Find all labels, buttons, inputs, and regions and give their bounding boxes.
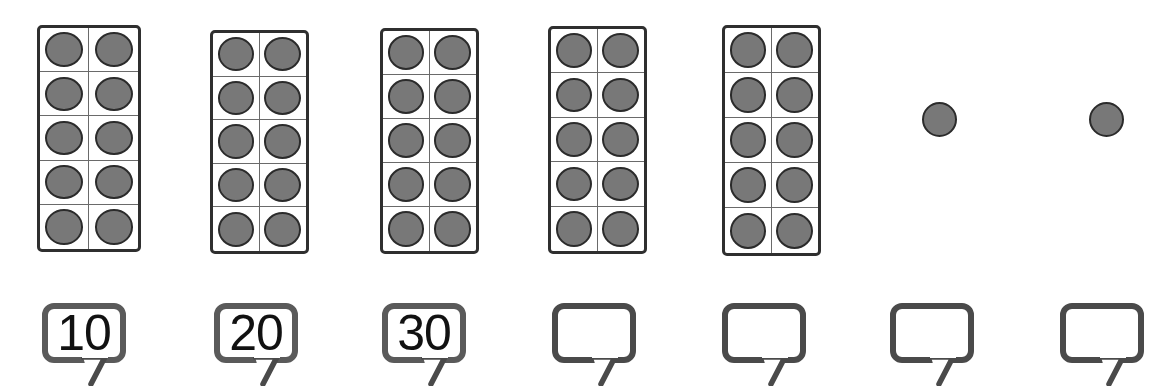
ten-frame-2[interactable] (210, 30, 309, 254)
ten-frame-cell[interactable] (260, 207, 307, 251)
ten-frame-cell[interactable] (260, 33, 307, 77)
counter-dot-icon (602, 211, 639, 247)
ten-frame-cell[interactable] (598, 162, 645, 206)
ten-frame-cell[interactable] (598, 118, 645, 162)
ten-frame-cell[interactable] (598, 73, 645, 117)
ten-frame-cell[interactable] (40, 116, 89, 160)
ten-frame-cell[interactable] (725, 73, 772, 118)
counting-worksheet-canvas: 102030 (0, 0, 1176, 386)
counter-dot-icon (556, 211, 592, 247)
counter-dot-icon (264, 37, 301, 71)
answer-bubble-blank[interactable] (1060, 303, 1144, 363)
ten-frame-cell[interactable] (260, 120, 307, 164)
ten-frame-cell[interactable] (213, 77, 260, 121)
ten-frame-cell[interactable] (260, 164, 307, 208)
bubble-5[interactable] (722, 303, 806, 363)
ten-frame-cell[interactable] (772, 208, 819, 253)
ten-frame-cell[interactable] (89, 161, 138, 205)
speech-bubble-tail-icon (761, 357, 795, 386)
bubble-6[interactable] (890, 303, 974, 363)
ten-frame-cell[interactable] (430, 31, 477, 75)
counter-dot-icon (730, 213, 766, 249)
ten-frame-cell[interactable] (383, 163, 430, 207)
ten-frame-cell[interactable] (383, 75, 430, 119)
ten-frame-cell[interactable] (598, 29, 645, 73)
counter-dot-icon (95, 165, 133, 200)
answer-bubble-filled[interactable]: 20 (214, 303, 298, 363)
ten-frame-cell[interactable] (213, 207, 260, 251)
counter-dot-icon (45, 165, 83, 200)
counter-dot-icon (434, 211, 471, 246)
ten-frame-cell[interactable] (430, 119, 477, 163)
bubble-2[interactable]: 20 (214, 303, 298, 363)
bubble-7[interactable] (1060, 303, 1144, 363)
speech-bubble-tail-icon (591, 357, 625, 386)
answer-bubble-filled[interactable]: 10 (42, 303, 126, 363)
bubble-4[interactable] (552, 303, 636, 363)
ten-frame-cell[interactable] (551, 162, 598, 206)
ten-frame-3[interactable] (380, 28, 479, 254)
ten-frame-4[interactable] (548, 26, 647, 254)
ten-frame-cell[interactable] (772, 73, 819, 118)
single-counter-1 (922, 102, 957, 137)
speech-bubble-tail-icon (1099, 357, 1133, 386)
ten-frame-cell[interactable] (725, 163, 772, 208)
ten-frame-cell[interactable] (551, 73, 598, 117)
ten-frame-cell[interactable] (89, 72, 138, 116)
answer-bubble-blank[interactable] (722, 303, 806, 363)
ten-frame-cell[interactable] (551, 207, 598, 251)
counter-dot-icon (556, 122, 592, 157)
counter-dot-icon (218, 212, 254, 247)
ten-frame-cell[interactable] (551, 29, 598, 73)
bubble-3[interactable]: 30 (382, 303, 466, 363)
ten-frame-cell[interactable] (430, 207, 477, 251)
ten-frame-cell[interactable] (772, 118, 819, 163)
ten-frame-cell[interactable] (213, 164, 260, 208)
ten-frame-cell[interactable] (430, 75, 477, 119)
counter-dot-icon (730, 32, 766, 67)
counter-dot-icon (388, 123, 424, 157)
ten-frame-cell[interactable] (40, 72, 89, 116)
ten-frame-cell[interactable] (725, 28, 772, 73)
speech-bubble-tail-icon (81, 357, 115, 386)
ten-frame-cell[interactable] (383, 119, 430, 163)
counter-dot-icon (45, 121, 83, 156)
ten-frame-cell[interactable] (40, 205, 89, 249)
ten-frame-cell[interactable] (89, 116, 138, 160)
answer-bubble-blank[interactable] (890, 303, 974, 363)
ten-frame-cell[interactable] (383, 31, 430, 75)
ten-frame-cell[interactable] (598, 207, 645, 251)
counter-dot-icon (776, 32, 813, 67)
ten-frame-cell[interactable] (89, 28, 138, 72)
ten-frame-cell[interactable] (772, 163, 819, 208)
counter-dot-icon (776, 122, 813, 157)
ten-frame-cell[interactable] (40, 28, 89, 72)
counter-dot-icon (730, 167, 766, 202)
ten-frame-cell[interactable] (772, 28, 819, 73)
ten-frame-1[interactable] (37, 25, 141, 252)
ten-frame-cell[interactable] (260, 77, 307, 121)
ten-frame-cell[interactable] (430, 163, 477, 207)
ten-frame-cell[interactable] (725, 118, 772, 163)
ten-frame-cell[interactable] (213, 33, 260, 77)
counter-dot-icon (45, 77, 83, 112)
ten-frame-cell[interactable] (383, 207, 430, 251)
answer-bubble-filled[interactable]: 30 (382, 303, 466, 363)
speech-bubble-tail-icon (421, 357, 455, 386)
counter-dot-icon (730, 122, 766, 157)
counter-dot-icon (776, 213, 813, 249)
answer-bubble-value: 20 (229, 308, 283, 358)
ten-frame-cell[interactable] (89, 205, 138, 249)
ten-frame-cell[interactable] (551, 118, 598, 162)
answer-bubble-value: 30 (397, 308, 451, 358)
ten-frame-5[interactable] (722, 25, 821, 256)
counter-dot-icon (218, 168, 254, 202)
ten-frame-cell[interactable] (725, 208, 772, 253)
counter-dot-icon (218, 81, 254, 115)
bubble-1[interactable]: 10 (42, 303, 126, 363)
ten-frame-cell[interactable] (213, 120, 260, 164)
answer-bubble-blank[interactable] (552, 303, 636, 363)
counter-dot-icon (556, 33, 592, 68)
counter-dot-icon (434, 79, 471, 113)
ten-frame-cell[interactable] (40, 161, 89, 205)
